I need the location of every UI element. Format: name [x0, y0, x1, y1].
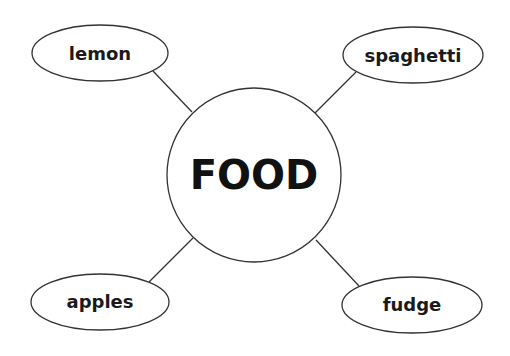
node-apples: apples [31, 274, 169, 330]
node-spaghetti: spaghetti [343, 27, 483, 83]
node-label-apples: apples [66, 291, 133, 312]
node-fudge: fudge [342, 277, 482, 333]
center-node: FOOD [167, 88, 341, 262]
connector-spaghetti [315, 72, 356, 113]
node-label-fudge: fudge [383, 294, 442, 315]
food-mind-map: FOOD lemon spaghetti apples fudge [0, 0, 510, 356]
connector-lemon [153, 71, 192, 112]
node-label-spaghetti: spaghetti [364, 45, 461, 66]
node-lemon: lemon [32, 25, 168, 81]
connector-apples [149, 238, 193, 282]
center-label: FOOD [190, 152, 319, 198]
connector-fudge [316, 240, 359, 286]
node-label-lemon: lemon [69, 43, 131, 64]
